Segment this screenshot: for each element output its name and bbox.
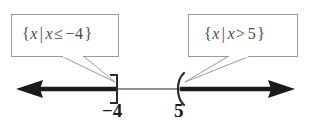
figure-graphics-layer: [0, 0, 310, 139]
arrowhead-left: [16, 80, 43, 98]
callout-left-close-brace: }: [84, 25, 92, 42]
tick-label-five: 5: [174, 100, 184, 122]
callout-left-open-brace: {: [22, 25, 30, 42]
callout-right-value: 5: [247, 25, 258, 42]
tick-label-neg-four: −4: [102, 100, 122, 122]
callout-right-text: {x|x>5}: [204, 25, 265, 43]
callout-right-relation: >: [235, 25, 247, 42]
callout-right-open-brace: {: [204, 25, 212, 42]
callout-left-text: {x|x≤−4}: [22, 25, 93, 43]
callout-right-tail: [185, 57, 249, 83]
callout-left-variable: x: [30, 25, 38, 42]
arrowhead-right: [268, 80, 295, 98]
callout-left-separator: |: [38, 25, 46, 42]
number-line-figure: {x|x≤−4} {x|x>5} −4 5: [0, 0, 310, 139]
callout-right-variable: x: [212, 25, 220, 42]
callout-right-close-brace: }: [257, 25, 265, 42]
callout-right-variable-2: x: [228, 25, 236, 42]
callout-left-value: −4: [64, 25, 84, 42]
callout-left-relation: ≤: [53, 25, 64, 42]
callout-left-variable-2: x: [46, 25, 54, 42]
callout-right-separator: |: [220, 25, 228, 42]
callout-left-tail: [62, 57, 115, 83]
